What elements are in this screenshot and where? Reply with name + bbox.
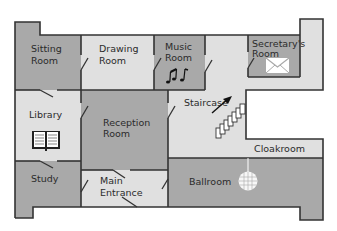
book-icon [32, 131, 60, 151]
cloakroom-label: Cloakroom [254, 143, 305, 154]
main-entrance-label: Entrance [100, 187, 143, 198]
reception-room-label: Reception [103, 117, 150, 128]
study-label: Study [31, 173, 59, 184]
study-area [15, 161, 81, 207]
main-entrance-label: Main [100, 175, 123, 186]
sitting-room-notch [15, 22, 40, 36]
study-notch [15, 206, 33, 218]
music-room-label: Music [165, 41, 192, 52]
sitting-room-label: Sitting [31, 43, 62, 54]
library-area [15, 90, 81, 161]
drawing-room-label: Room [99, 55, 126, 66]
envelope-icon [266, 58, 289, 73]
floor-plan: Sitting Room Drawing Room Music Room Sec… [0, 0, 337, 231]
reception-room-label: Room [103, 128, 130, 139]
secretarys-room-label: Room [252, 48, 279, 59]
sitting-room-label: Room [31, 55, 58, 66]
music-room-label: Room [165, 52, 192, 63]
library-label: Library [29, 109, 63, 120]
staircase-label: Staircase [184, 97, 228, 108]
drawing-room-label: Drawing [99, 43, 139, 54]
ballroom-label: Ballroom [189, 176, 231, 187]
